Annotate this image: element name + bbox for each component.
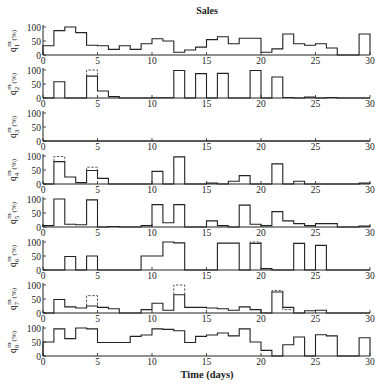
panel-q4: 050100051015202530q4m(%) [5,152,375,196]
x-tick-label: 5 [95,228,100,238]
x-tick-label: 15 [202,185,212,195]
x-tick-label: 30 [365,99,375,109]
x-tick-label: 30 [365,271,375,281]
y-tick-label: 50 [32,80,42,90]
x-tick-label: 30 [365,228,375,238]
x-tick-label: 15 [202,314,212,324]
x-tick-label: 20 [256,185,266,195]
dashed-forecast-marker [87,70,98,76]
y-axis-label: q4m(%) [5,158,21,181]
x-tick-label: 5 [95,142,100,152]
y-tick-label: 100 [27,109,42,119]
x-tick-label: 30 [365,142,375,152]
y-axis-label: q5m(%) [5,201,21,224]
x-tick-label: 25 [311,185,321,195]
y-tick-label: 100 [27,281,42,291]
chart-canvas: Sales 050100051015202530q1m(%)0501000510… [0,0,386,388]
x-tick-label: 5 [95,99,100,109]
x-tick-label: 0 [41,271,46,281]
x-tick-label: 0 [41,56,46,66]
step-series-line [43,292,370,313]
x-tick-label: 15 [202,142,212,152]
x-tick-label: 5 [95,314,100,324]
x-tick-label: 5 [95,56,100,66]
x-tick-label: 20 [256,314,266,324]
x-tick-label: 0 [41,314,46,324]
x-tick-label: 15 [202,56,212,66]
x-tick-label: 10 [147,314,157,324]
y-tick-label: 50 [32,338,42,348]
x-tick-label: 10 [147,142,157,152]
step-series-line [43,71,370,98]
x-tick-label: 15 [202,357,212,367]
y-tick-label: 100 [27,238,42,248]
x-tick-label: 25 [311,99,321,109]
step-series-line [43,328,370,356]
y-axis-label: q6m(%) [5,244,21,267]
dashed-forecast-marker [87,296,98,306]
y-tick-label: 50 [32,166,42,176]
panel-q5: 050100051015202530q5m(%) [5,195,375,239]
x-tick-label: 30 [365,185,375,195]
x-tick-label: 30 [365,56,375,66]
y-tick-label: 50 [32,295,42,305]
x-tick-label: 0 [41,142,46,152]
x-tick-label: 10 [147,99,157,109]
y-axis-label: q8m(%) [5,330,21,353]
x-tick-label: 10 [147,357,157,367]
x-tick-label: 20 [256,228,266,238]
x-tick-label: 30 [365,357,375,367]
dashed-forecast-marker [174,285,185,295]
x-tick-label: 5 [95,185,100,195]
y-tick-label: 100 [27,152,42,162]
x-tick-label: 30 [365,314,375,324]
panel-q1: 050100051015202530q1m(%) [5,23,375,67]
x-tick-label: 5 [95,271,100,281]
x-tick-label: 20 [256,99,266,109]
panel-q8: 050100051015202530q8m(%) [5,324,375,368]
x-tick-label: 0 [41,99,46,109]
x-tick-label: 0 [41,357,46,367]
x-tick-label: 25 [311,271,321,281]
x-tick-label: 10 [147,56,157,66]
step-series-line [43,242,370,270]
y-axis-label: q3m(%) [5,115,21,138]
x-tick-label: 10 [147,271,157,281]
step-series-line [43,27,370,55]
y-tick-label: 50 [32,252,42,262]
x-tick-label: 25 [311,228,321,238]
x-tick-label: 5 [95,357,100,367]
y-tick-label: 100 [27,66,42,76]
x-tick-label: 20 [256,142,266,152]
y-axis-label: q7m(%) [5,287,21,310]
x-tick-label: 25 [311,314,321,324]
panel-q7: 050100051015202530q7m(%) [5,281,375,325]
dashed-forecast-marker [54,157,65,162]
x-tick-label: 10 [147,228,157,238]
panels-group: 050100051015202530q1m(%)0501000510152025… [5,23,375,368]
panel-q2: 050100051015202530q2m(%) [5,66,375,110]
x-tick-label: 20 [256,271,266,281]
panel-q3: 050100051015202530q3m(%) [5,109,375,153]
y-tick-label: 100 [27,23,42,33]
sales-step-chart: Sales 050100051015202530q1m(%)0501000510… [0,0,386,388]
step-series-line [43,157,370,184]
x-tick-label: 10 [147,185,157,195]
x-tick-label: 25 [311,142,321,152]
x-tick-label: 25 [311,357,321,367]
panel-q6: 050100051015202530q6m(%) [5,238,375,282]
x-tick-label: 15 [202,271,212,281]
y-tick-label: 50 [32,209,42,219]
y-tick-label: 100 [27,324,42,334]
y-axis-label: q1m(%) [5,29,21,52]
y-tick-label: 100 [27,195,42,205]
y-axis-label: q2m(%) [5,72,21,95]
x-axis-label: Time (days) [180,369,234,381]
x-tick-label: 20 [256,357,266,367]
x-tick-label: 15 [202,228,212,238]
step-series-line [43,199,370,227]
y-tick-label: 50 [32,123,42,133]
y-tick-label: 50 [32,37,42,47]
x-tick-label: 20 [256,56,266,66]
x-tick-label: 15 [202,99,212,109]
